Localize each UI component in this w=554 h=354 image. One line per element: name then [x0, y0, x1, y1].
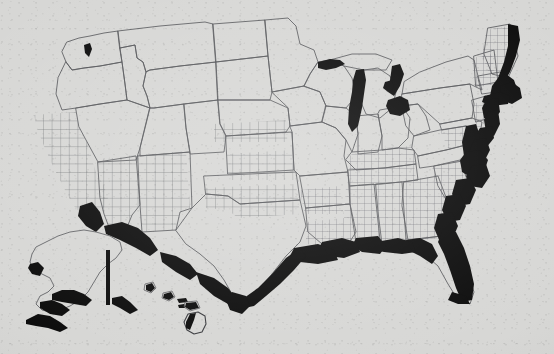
- hatch-arkansas: [296, 170, 352, 214]
- state-washington: [62, 31, 122, 70]
- aleutian-chain-fill: [26, 314, 68, 332]
- state-iowa: [272, 86, 326, 126]
- state-oregon: [56, 62, 127, 110]
- map-canvas: [0, 0, 554, 354]
- state-south-dakota: [216, 56, 272, 100]
- baja-tip-fill: [160, 252, 198, 280]
- state-missouri: [290, 122, 348, 176]
- hatch-new-mexico: [134, 146, 198, 238]
- lake-superior-fill: [318, 59, 345, 70]
- state-montana: [118, 22, 216, 72]
- state-idaho: [120, 45, 150, 108]
- mexico-border-shade-fill: [196, 272, 236, 304]
- hawaii-molokai-fill: [177, 298, 188, 303]
- lake-michigan-fill: [348, 69, 366, 132]
- state-north-dakota: [213, 20, 268, 62]
- hatch-nebraska: [210, 96, 300, 142]
- florida-east-coast-fill: [438, 232, 474, 302]
- state-new-york: [402, 56, 482, 94]
- united-states-map: [0, 0, 554, 354]
- state-pennsylvania: [402, 84, 474, 124]
- state-utah: [140, 104, 190, 156]
- alaska-se-panhandle-fill: [112, 296, 138, 314]
- lake-huron-fill: [388, 64, 404, 96]
- state-minnesota: [265, 18, 318, 92]
- puget-sound-fill: [84, 43, 92, 57]
- alaska-divider-bar: [106, 250, 110, 305]
- state-indiana: [356, 114, 382, 154]
- texas-gulf-coast-fill: [244, 248, 306, 308]
